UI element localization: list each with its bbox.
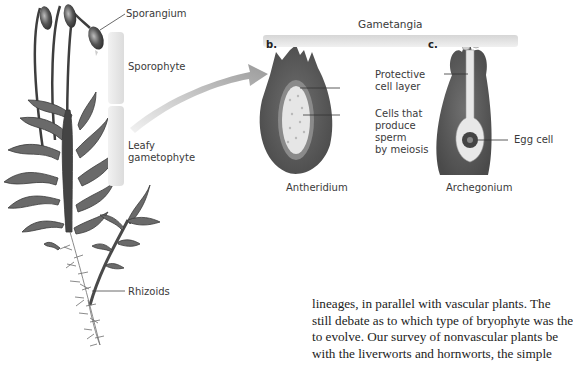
curved-arrow <box>130 64 268 133</box>
label-egg-cell: Egg cell <box>514 134 553 146</box>
caption-archegonium: Archegonium <box>446 182 512 194</box>
label-sporophyte: Sporophyte <box>128 61 186 73</box>
label-cells-line1: Cells that <box>375 108 422 120</box>
label-cells-line3: sperm <box>375 132 406 144</box>
label-rhizoids: Rhizoids <box>128 286 170 298</box>
body-text: lineages, in parallel with vascular plan… <box>312 296 573 362</box>
body-line-1: lineages, in parallel with vascular plan… <box>312 296 573 313</box>
gametangia-title: Gametangia <box>358 18 422 30</box>
caption-antheridium: Antheridium <box>286 182 348 194</box>
body-line-2: still debate as to which type of bryophy… <box>312 313 573 330</box>
archegonium-drawing <box>436 40 508 175</box>
label-protective-line1: Protective <box>375 69 425 81</box>
panel-b-letter: b. <box>266 39 277 50</box>
body-line-3: to evolve. Our survey of nonvascular pla… <box>312 329 573 346</box>
label-cells-line2: produce <box>375 120 416 132</box>
sporophyte-bracket <box>108 32 124 104</box>
rhizoids <box>60 232 104 346</box>
antheridium-drawing <box>260 45 340 174</box>
label-sporangium: Sporangium <box>126 8 187 20</box>
panel-c-letter: c. <box>428 39 438 50</box>
label-leafy-line2: gametophyte <box>128 152 195 164</box>
label-protective-line2: cell layer <box>375 81 420 93</box>
body-line-4: with the liverworts and hornworts, the s… <box>312 346 573 363</box>
label-cells-line4: by meiosis <box>375 144 428 156</box>
gametangia-bar <box>263 35 518 47</box>
gametophyte-bracket <box>108 106 124 186</box>
label-leafy-line1: Leafy <box>128 140 155 152</box>
